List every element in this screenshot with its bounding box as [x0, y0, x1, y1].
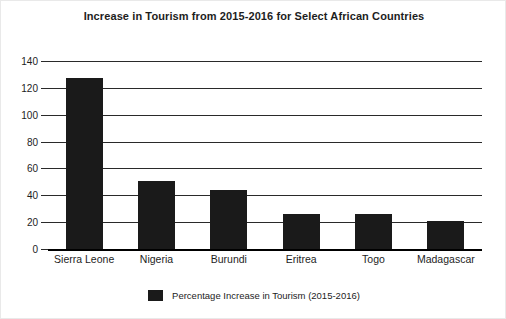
axis-baseline	[48, 249, 482, 250]
chart-title: Increase in Tourism from 2015-2016 for S…	[1, 10, 506, 22]
x-tick-label: Nigeria	[140, 253, 173, 265]
bar	[355, 214, 392, 249]
y-tick-label: 120	[21, 82, 38, 93]
y-tick-label: 20	[27, 217, 38, 228]
y-tick-label: 40	[27, 190, 38, 201]
y-tick-mark	[41, 222, 48, 223]
bar	[283, 214, 320, 249]
chart-screenshot: Increase in Tourism from 2015-2016 for S…	[0, 0, 506, 319]
legend-label: Percentage Increase in Tourism (2015-201…	[172, 290, 360, 301]
x-tick-label: Burundi	[211, 253, 247, 265]
bar	[210, 190, 247, 249]
bar	[427, 221, 464, 249]
x-tick-label: Eritrea	[286, 253, 317, 265]
chart-legend: Percentage Increase in Tourism (2015-201…	[1, 290, 506, 301]
bar-series	[48, 61, 482, 249]
x-tick-label: Togo	[362, 253, 385, 265]
x-tick-label: Madagascar	[417, 253, 475, 265]
y-tick-label: 100	[21, 109, 38, 120]
y-tick-label: 0	[32, 244, 38, 255]
y-tick-label: 80	[27, 136, 38, 147]
y-tick-label: 140	[21, 56, 38, 67]
y-tick-mark	[41, 142, 48, 143]
x-tick-label: Sierra Leone	[54, 253, 114, 265]
legend-swatch-icon	[148, 290, 163, 301]
plot-area: 020406080100120140	[48, 61, 482, 249]
y-tick-mark	[41, 195, 48, 196]
y-tick-mark	[41, 115, 48, 116]
y-tick-mark	[41, 249, 48, 250]
y-tick-label: 60	[27, 163, 38, 174]
y-tick-mark	[41, 61, 48, 62]
bar	[66, 78, 103, 249]
x-axis-labels: Sierra LeoneNigeriaBurundiEritreaTogoMad…	[48, 253, 482, 269]
bar	[138, 181, 175, 249]
y-tick-mark	[41, 88, 48, 89]
y-tick-mark	[41, 168, 48, 169]
